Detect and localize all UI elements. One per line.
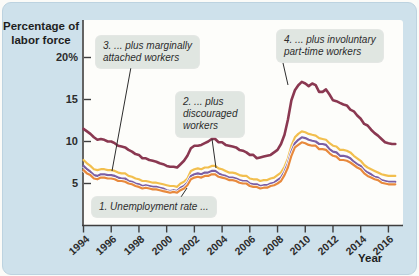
figure-unemployment-measures: Percentage of labor force 20%15105199419… bbox=[0, 0, 419, 276]
plot-area bbox=[82, 20, 403, 226]
chart-canvas bbox=[0, 0, 419, 276]
